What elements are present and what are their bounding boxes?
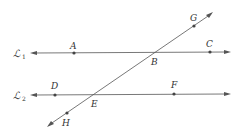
label-l1: ℒ 1 [13, 48, 26, 60]
label-l2: ℒ 2 [13, 90, 26, 102]
point-f [172, 92, 175, 95]
label-g: G [190, 13, 197, 23]
label-a: A [69, 41, 77, 51]
transversal-line [47, 12, 213, 127]
label-h: H [61, 118, 70, 128]
svg-text:ℒ: ℒ [13, 48, 21, 59]
arrow-right-icon [224, 92, 231, 96]
line-l2 [30, 92, 231, 97]
arrow-left-icon [30, 93, 37, 97]
label-e: E [90, 99, 98, 109]
label-b: B [150, 57, 158, 67]
line-l1 [30, 50, 231, 55]
diagram-canvas: A B C D E F G H ℒ 1 ℒ 2 [0, 0, 238, 132]
label-f: F [170, 80, 178, 90]
label-c: C [206, 39, 213, 49]
point-h [65, 111, 68, 114]
svg-text:ℒ: ℒ [13, 90, 21, 101]
point-a [72, 51, 75, 54]
point-g [192, 24, 195, 27]
point-c [208, 50, 211, 53]
label-d: D [50, 81, 58, 91]
arrow-left-icon [30, 51, 37, 55]
svg-text:1: 1 [22, 53, 26, 60]
arrow-right-icon [224, 50, 231, 54]
svg-text:2: 2 [22, 95, 26, 102]
point-d [53, 93, 56, 96]
